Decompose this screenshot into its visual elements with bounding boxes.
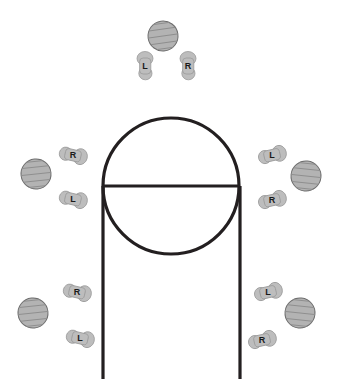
basketball-icon <box>290 160 323 193</box>
shooting-spot-right-wing: LR <box>257 144 323 211</box>
markers-layer: LRRLLRRLLR <box>0 0 338 379</box>
shooting-spot-left-wing: RL <box>20 144 89 210</box>
footprint-icon-l: L <box>253 281 284 303</box>
footprint-label: L <box>70 194 76 204</box>
footprint-label: L <box>265 287 271 297</box>
basketball-icon <box>17 297 50 330</box>
footprint-icon-r: R <box>247 329 278 351</box>
footprint-label: R <box>259 335 266 345</box>
footprint-icon-r: R <box>58 144 89 166</box>
basketball-icon <box>284 297 317 330</box>
footprint-icon-l: L <box>65 327 96 349</box>
footprint-label: L <box>142 61 148 71</box>
footprint-icon-r: R <box>180 52 196 80</box>
footprint-label: R <box>74 287 81 297</box>
footprint-icon-r: R <box>257 189 288 211</box>
footprint-label: L <box>269 150 275 160</box>
footprint-label: R <box>269 195 276 205</box>
footprint-label: L <box>77 333 83 343</box>
shooting-spot-right-baseline: LR <box>247 281 317 351</box>
footprint-icon-l: L <box>257 144 288 166</box>
basketball-drill-diagram: LRRLLRRLLR <box>0 0 338 379</box>
basketball-icon <box>146 19 180 53</box>
footprint-icon-r: R <box>62 281 93 303</box>
footprint-label: R <box>185 61 192 71</box>
footprint-icon-l: L <box>137 52 153 80</box>
footprint-label: R <box>70 150 77 160</box>
basketball-icon <box>20 158 53 191</box>
footprint-icon-l: L <box>58 188 89 210</box>
shooting-spot-left-baseline: RL <box>17 281 96 349</box>
shooting-spot-top-of-key: LR <box>137 19 196 80</box>
